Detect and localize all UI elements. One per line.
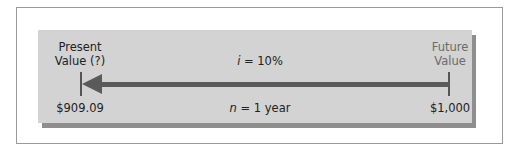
period-value: = 1 year bbox=[237, 101, 291, 115]
present-label-line2: Value (?) bbox=[45, 54, 115, 68]
present-label-line1: Present bbox=[45, 40, 115, 54]
rate-value: = 10% bbox=[240, 54, 283, 68]
rate-label: i = 10% bbox=[200, 54, 320, 68]
arrow-left-icon bbox=[82, 74, 102, 94]
period-label: n = 1 year bbox=[200, 101, 320, 115]
arrow-shaft bbox=[96, 82, 449, 87]
future-label-line2: Value bbox=[415, 54, 485, 68]
present-value-amount: $909.09 bbox=[45, 101, 115, 115]
future-value-amount: $1,000 bbox=[415, 101, 485, 115]
future-value-label: Future Value bbox=[415, 40, 485, 68]
period-variable: n bbox=[230, 101, 237, 115]
future-label-line1: Future bbox=[415, 40, 485, 54]
present-value-label: Present Value (?) bbox=[45, 40, 115, 68]
